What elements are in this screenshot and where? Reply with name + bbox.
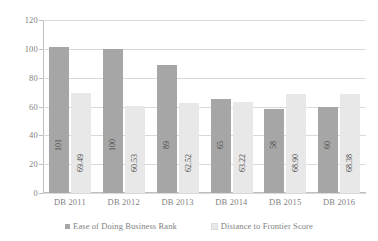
bar-group: 5868.90 <box>258 20 312 193</box>
bar-value-label: 60.53 <box>131 154 139 172</box>
bar-distance-to-frontier-score[interactable]: 60.53 <box>125 106 145 193</box>
legend-item[interactable]: Ease of Doing Business Rank <box>65 221 177 231</box>
y-tick-label: 20 <box>8 160 38 169</box>
y-tick-mark <box>39 193 43 194</box>
legend-square-marker <box>65 224 70 229</box>
x-axis-labels: DB 2011DB 2012DB 2013DB 2014DB 2015DB 20… <box>43 197 366 211</box>
bar-group: 6563.22 <box>205 20 259 193</box>
bar-group: 10060.53 <box>97 20 151 193</box>
plot-area: 10169.4910060.538962.526563.225868.90606… <box>43 20 366 193</box>
bar-value-label: 62.52 <box>185 154 193 172</box>
legend-item[interactable]: Distance to Frontier Score <box>211 221 313 231</box>
bar-ease-of-doing-business-rank[interactable]: 65 <box>211 99 231 193</box>
bar-value-label: 68.90 <box>292 154 300 172</box>
x-tick-label: DB 2012 <box>97 197 151 208</box>
bar-value-label: 63.22 <box>239 154 247 172</box>
bar-value-label: 100 <box>109 139 117 151</box>
y-tick-label: 40 <box>8 131 38 140</box>
bar-distance-to-frontier-score[interactable]: 62.52 <box>179 103 199 193</box>
bar-value-label: 89 <box>163 141 171 149</box>
bar-distance-to-frontier-score[interactable]: 69.49 <box>71 93 91 193</box>
bar-value-label: 60 <box>324 141 332 149</box>
y-tick-label: 120 <box>8 16 38 25</box>
x-tick-label: DB 2016 <box>312 197 366 208</box>
bar-group: 10169.49 <box>43 20 97 193</box>
bars-layer: 10169.4910060.538962.526563.225868.90606… <box>43 20 366 193</box>
bar-ease-of-doing-business-rank[interactable]: 100 <box>103 49 123 193</box>
legend-label: Ease of Doing Business Rank <box>73 221 177 231</box>
bar-ease-of-doing-business-rank[interactable]: 101 <box>49 47 69 193</box>
y-tick-label: 60 <box>8 103 38 112</box>
legend-label: Distance to Frontier Score <box>221 221 313 231</box>
y-tick-mark <box>39 49 43 50</box>
y-tick-label: 80 <box>8 74 38 83</box>
bar-value-label: 69.49 <box>77 154 85 172</box>
y-tick-mark <box>39 20 43 21</box>
bar-group: 8962.52 <box>151 20 205 193</box>
bar-distance-to-frontier-score[interactable]: 68.38 <box>340 94 360 193</box>
bar-value-label: 58 <box>270 141 278 149</box>
x-tick-label: DB 2015 <box>258 197 312 208</box>
bar-value-label: 68.38 <box>346 154 354 172</box>
bar-ease-of-doing-business-rank[interactable]: 60 <box>318 107 338 194</box>
bar-group: 6068.38 <box>312 20 366 193</box>
chart-legend: Ease of Doing Business RankDistance to F… <box>0 221 378 231</box>
y-tick-mark <box>39 164 43 165</box>
legend-square-marker <box>211 223 218 230</box>
y-tick-mark <box>39 78 43 79</box>
y-tick-mark <box>39 135 43 136</box>
bar-value-label: 65 <box>217 141 225 149</box>
y-tick-label: 100 <box>8 45 38 54</box>
bar-ease-of-doing-business-rank[interactable]: 58 <box>264 109 284 193</box>
x-tick-label: DB 2013 <box>151 197 205 208</box>
y-tick-mark <box>39 107 43 108</box>
bar-distance-to-frontier-score[interactable]: 68.90 <box>286 94 306 193</box>
y-tick-label: 0 <box>8 189 38 198</box>
bar-value-label: 101 <box>55 139 63 151</box>
x-tick-label: DB 2011 <box>43 197 97 208</box>
bar-chart: 10169.4910060.538962.526563.225868.90606… <box>0 0 378 241</box>
bar-distance-to-frontier-score[interactable]: 63.22 <box>233 102 253 193</box>
x-tick-label: DB 2014 <box>205 197 259 208</box>
gridline-0 <box>43 193 366 194</box>
bar-ease-of-doing-business-rank[interactable]: 89 <box>157 65 177 193</box>
